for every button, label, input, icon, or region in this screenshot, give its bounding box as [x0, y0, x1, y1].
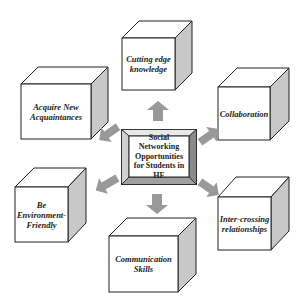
node-label: Cutting edge knowledge: [122, 38, 175, 90]
arrow-down-right-icon: [196, 175, 222, 201]
node-label: Acquire New Acquaintances: [21, 84, 91, 139]
node-communication-skills: Communication Skills: [109, 218, 199, 294]
center-node: Social Networking Opportunities for Stud…: [121, 129, 197, 185]
node-label: Be Environment-Friendly: [15, 187, 68, 242]
arrow-down-icon: [146, 194, 168, 214]
arrow-down-left-icon: [93, 171, 121, 197]
node-inter-crossing-relationships: Inter-crossing relationships: [218, 177, 290, 252]
node-collaboration: Collaboration: [218, 68, 290, 142]
node-be-environment-friendly: Be Environment-Friendly: [15, 168, 87, 244]
node-label: Communication Skills: [109, 236, 178, 292]
node-cutting-edge-knowledge: Cutting edge knowledge: [122, 21, 194, 91]
center-label: Social Networking Opportunities for Stud…: [129, 136, 189, 177]
arrow-up-icon: [147, 101, 169, 121]
diagram-canvas: Cutting edge knowledge Acquire New Acqua…: [0, 0, 305, 303]
node-label: Inter-crossing relationships: [218, 197, 271, 250]
arrow-up-right-icon: [196, 124, 222, 148]
node-label: Collaboration: [218, 87, 270, 140]
arrow-up-left-icon: [96, 121, 122, 145]
